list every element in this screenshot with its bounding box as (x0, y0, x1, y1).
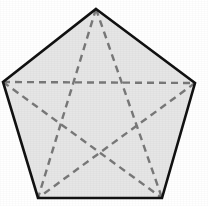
pentagon-pentagram-figure (0, 0, 208, 206)
pentagon-fill (3, 9, 195, 198)
figure-canvas (0, 0, 208, 206)
